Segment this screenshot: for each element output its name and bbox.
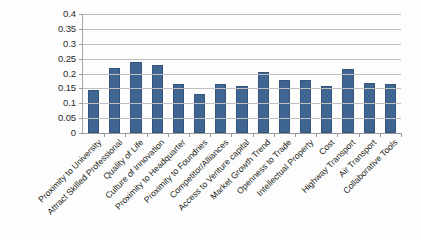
bar <box>194 94 205 133</box>
y-axis-tickmark <box>79 88 83 89</box>
y-axis-tickmark <box>79 103 83 104</box>
bar-chart: 0.40.350.30.250.20.150.10.050 Proximity … <box>0 0 421 240</box>
gridline <box>83 44 401 45</box>
y-axis-tick-label: 0.1 <box>63 99 76 109</box>
bar <box>236 86 247 133</box>
y-axis-tick-label: 0.15 <box>58 84 76 94</box>
y-axis-tickmark <box>79 74 83 75</box>
chart-plot-wrapper: 0.40.350.30.250.20.150.10.050 Proximity … <box>0 0 421 240</box>
gridline <box>83 74 401 75</box>
gridline <box>83 88 401 89</box>
bar <box>109 68 120 133</box>
gridline <box>83 103 401 104</box>
y-axis-tick-label: 0.2 <box>63 69 76 79</box>
y-axis-tick-labels: 0.40.350.30.250.20.150.10.050 <box>36 8 80 134</box>
y-axis-tick-label: 0.3 <box>63 39 76 49</box>
gridline <box>83 14 401 15</box>
y-axis-tickmark <box>79 118 83 119</box>
gridline <box>83 59 401 60</box>
y-axis-tick-label: 0 <box>71 128 76 138</box>
y-axis-tickmark <box>79 44 83 45</box>
y-axis-tick-label: 0.05 <box>58 113 76 123</box>
y-axis-tick-label: 0.25 <box>58 54 76 64</box>
bar <box>342 69 353 133</box>
gridline <box>83 29 401 30</box>
bar <box>321 86 332 133</box>
y-axis-tickmark <box>79 29 83 30</box>
bar <box>173 84 184 133</box>
y-axis-tick-label: 0.4 <box>63 9 76 19</box>
bar <box>215 84 226 133</box>
bar <box>364 83 375 133</box>
plot-area <box>82 14 401 133</box>
y-axis-tick-label: 0.35 <box>58 24 76 34</box>
gridline <box>83 118 401 119</box>
bar <box>385 84 396 133</box>
bar <box>88 90 99 133</box>
bar <box>152 65 163 133</box>
x-axis-category-labels: Proximity to UniversityAttract Skilled P… <box>82 134 421 240</box>
y-axis-tickmark <box>79 59 83 60</box>
y-axis-tickmark <box>79 14 83 15</box>
